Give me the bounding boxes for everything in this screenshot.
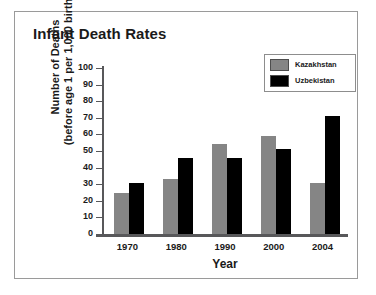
y-axis-tick-label: 90 — [83, 80, 93, 89]
x-axis-tick-label: 2000 — [249, 241, 298, 252]
bar-group — [261, 68, 291, 234]
x-axis-line — [96, 234, 348, 237]
y-axis-tick-label-wrap: 50 — [62, 146, 93, 156]
y-axis-tick-label-wrap: 0 — [62, 229, 93, 239]
y-axis-tick-label: 50 — [83, 146, 93, 155]
bar-uzbekistan-2004 — [325, 116, 340, 234]
bar-kazakhstan-2004 — [310, 183, 325, 234]
bar-uzbekistan-1990 — [227, 158, 242, 234]
y-axis-tick-label-wrap: 30 — [62, 179, 93, 189]
bar-kazakhstan-1970 — [114, 193, 129, 235]
x-axis-tick-label: 2004 — [298, 241, 347, 252]
y-axis-tick-label-wrap: 60 — [62, 129, 93, 139]
y-axis-tick — [96, 118, 103, 119]
chart-figure: Infant Death Rates Number of Deaths (bef… — [0, 0, 376, 295]
y-axis-title-line1: Number of Deaths — [49, 0, 62, 167]
y-axis-tick — [96, 101, 103, 102]
y-axis-tick-label: 30 — [83, 179, 93, 188]
y-axis-tick-label: 40 — [83, 163, 93, 172]
y-axis-tick-label-wrap: 10 — [62, 212, 93, 222]
y-axis-tick-label: 80 — [83, 96, 93, 105]
bar-kazakhstan-1990 — [212, 144, 227, 234]
y-axis-tick-label: 70 — [83, 113, 93, 122]
y-axis-tick — [96, 68, 103, 69]
y-axis-tick — [96, 168, 103, 169]
y-axis-tick-label-wrap: 100 — [62, 63, 93, 73]
y-axis-tick-label: 0 — [88, 229, 93, 238]
legend-label-kazakhstan: Kazakhstan — [295, 60, 337, 69]
y-axis-tick-label-wrap: 80 — [62, 96, 93, 106]
legend-swatch-uzbekistan — [270, 75, 289, 87]
x-axis-title: Year — [103, 257, 347, 271]
y-axis-tick — [96, 85, 103, 86]
x-axis-tick-label: 1970 — [103, 241, 152, 252]
plot-area — [103, 68, 347, 234]
y-axis-tick-label-wrap: 20 — [62, 196, 93, 206]
y-axis-tick-label: 100 — [78, 63, 93, 72]
legend-swatch-kazakhstan — [270, 59, 289, 71]
bar-uzbekistan-2000 — [276, 149, 291, 234]
bar-group — [163, 68, 193, 234]
chart-legend: Kazakhstan Uzbekistan — [264, 54, 356, 92]
bar-group — [114, 68, 144, 234]
y-axis-tick — [96, 151, 103, 152]
y-axis-tick-label-wrap: 40 — [62, 163, 93, 173]
y-axis-tick-label: 10 — [83, 212, 93, 221]
x-axis-tick-label: 1980 — [152, 241, 201, 252]
bar-uzbekistan-1980 — [178, 158, 193, 234]
y-axis-tick-label: 20 — [83, 196, 93, 205]
bar-kazakhstan-1980 — [163, 179, 178, 234]
bar-uzbekistan-1970 — [129, 183, 144, 234]
y-axis-tick-label: 60 — [83, 129, 93, 138]
y-axis-tick — [96, 184, 103, 185]
y-axis-tick-label-wrap: 90 — [62, 80, 93, 90]
y-axis-tick — [96, 234, 103, 235]
bar-group — [310, 68, 340, 234]
y-axis-tick — [96, 217, 103, 218]
bar-group — [212, 68, 242, 234]
y-axis-tick-label-wrap: 70 — [62, 113, 93, 123]
y-axis-tick — [96, 201, 103, 202]
legend-label-uzbekistan: Uzbekistan — [295, 76, 335, 85]
x-axis-tick-label: 1990 — [201, 241, 250, 252]
y-axis-tick — [96, 134, 103, 135]
bar-kazakhstan-2000 — [261, 136, 276, 234]
